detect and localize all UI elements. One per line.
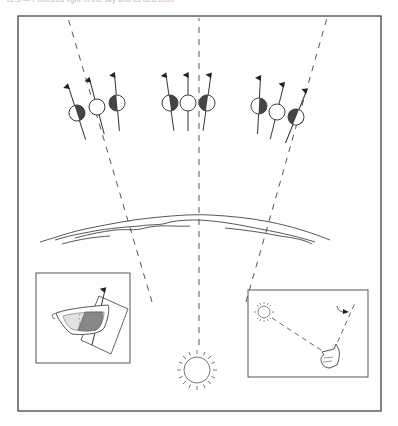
inset-sunglasses [36, 273, 130, 363]
polarization-diagram [0, 0, 398, 426]
left-ray [68, 18, 152, 302]
polarization-group-right [250, 78, 314, 146]
inset-sun-pointing [248, 290, 368, 377]
polarization-marker [250, 78, 269, 135]
polarization-group-center [158, 74, 219, 132]
horizon-lines [40, 215, 330, 244]
polarization-marker [82, 78, 112, 136]
polarization-group-left [61, 74, 128, 142]
inset-right-frame [248, 290, 368, 377]
polarization-marker [158, 74, 182, 132]
sun-icon [177, 350, 217, 390]
polarization-marker [61, 84, 94, 142]
right-ray [246, 18, 327, 302]
polarization-marker [180, 75, 196, 131]
polarization-marker [262, 83, 291, 141]
polarization-marker [107, 74, 128, 131]
